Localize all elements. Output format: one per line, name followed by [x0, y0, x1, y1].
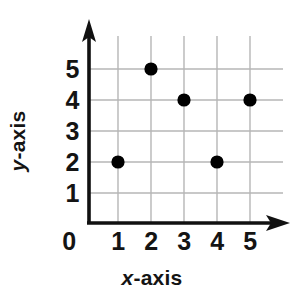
y-axis-title-variable: y: [6, 160, 29, 172]
y-tick-label-1: 1: [55, 181, 79, 206]
plot-canvas: [0, 0, 304, 304]
y-tick-label-5: 5: [55, 57, 79, 82]
y-tick-label-3: 3: [55, 119, 79, 144]
x-axis-title: x-axis: [0, 266, 304, 290]
y-axis-title-suffix: -axis: [6, 111, 29, 160]
y-axis-title: y-axis: [6, 86, 30, 196]
y-tick-label-2: 2: [55, 150, 79, 175]
scatter-plot-figure: 0 1 2 3 4 5 1 2 3 4 5 x-axis y-axis: [0, 0, 304, 304]
x-axis-title-variable: x: [122, 266, 134, 289]
grid-lines: [88, 36, 283, 222]
data-point: [177, 93, 190, 106]
x-tick-label-5: 5: [237, 229, 263, 254]
data-point: [210, 155, 223, 168]
data-point: [111, 155, 124, 168]
x-axis-title-suffix: -axis: [134, 266, 183, 289]
axes: [82, 19, 290, 231]
y-tick-label-4: 4: [55, 88, 79, 113]
data-point: [243, 93, 256, 106]
x-tick-label-1: 1: [105, 229, 131, 254]
axis-origin-label: 0: [56, 229, 82, 254]
x-tick-label-4: 4: [204, 229, 230, 254]
x-tick-label-2: 2: [138, 229, 164, 254]
x-tick-label-3: 3: [171, 229, 197, 254]
data-point: [144, 62, 157, 75]
